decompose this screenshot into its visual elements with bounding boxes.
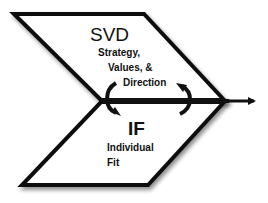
if-line-fit: Fit [107,158,119,168]
if-title: IF [128,119,145,138]
if-line-individual: Individual [107,143,154,153]
svd-line-values: Values, & [108,63,152,73]
svd-line-strategy: Strategy, [98,48,140,58]
svd-line-direction: Direction [123,78,166,88]
svd-if-diagram [0,0,268,203]
svd-title: SVD [90,25,129,44]
